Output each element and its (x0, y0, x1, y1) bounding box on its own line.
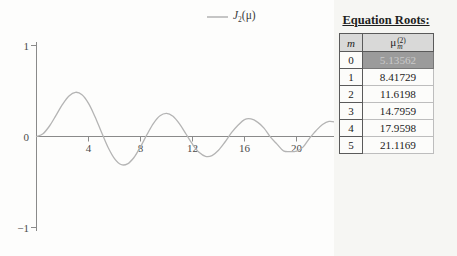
x-tick-label: 16 (239, 142, 251, 154)
y-tick-label: 0 (24, 131, 30, 143)
roots-table-title: Equation Roots: (334, 13, 438, 28)
m-index-cell: 2 (340, 86, 363, 103)
y-tick-label: 1 (24, 40, 30, 52)
table-row: 5 21.1169 (340, 137, 434, 154)
m-index-cell: 0 (340, 52, 363, 69)
roots-panel: Equation Roots: m μ(2)m 0 5.13562 1 8.41… (334, 0, 457, 256)
table-row: 4 17.9598 (340, 120, 434, 137)
root-value-cell-highlighted: 5.13562 (363, 52, 434, 69)
y-tick-label: −1 (17, 222, 29, 234)
x-tick-label: 4 (86, 142, 92, 154)
root-value-cell: 11.6198 (363, 86, 434, 103)
roots-table: m μ(2)m 0 5.13562 1 8.41729 2 11.6198 (339, 33, 434, 154)
mu-symbol: μ (390, 36, 396, 48)
column-header-mu: μ(2)m (363, 34, 434, 52)
m-index-cell: 4 (340, 120, 363, 137)
m-index-cell: 3 (340, 103, 363, 120)
roots-table-header-row: m μ(2)m (340, 34, 434, 52)
figure-bessel-j2: 4812162010−1 J2(μ) Equation Roots: m μ(2… (0, 0, 457, 256)
bessel-curve (37, 92, 336, 165)
legend-argument: (μ) (242, 9, 256, 21)
table-row: 1 8.41729 (340, 69, 434, 86)
root-value-cell: 8.41729 (363, 69, 434, 86)
m-index-cell: 1 (340, 69, 363, 86)
m-index-cell: 5 (340, 137, 363, 154)
root-value-cell: 14.7959 (363, 103, 434, 120)
table-row: 3 14.7959 (340, 103, 434, 120)
root-value-cell: 21.1169 (363, 137, 434, 154)
table-row: 2 11.6198 (340, 86, 434, 103)
table-row: 0 5.13562 (340, 52, 434, 69)
root-value-cell: 17.9598 (363, 120, 434, 137)
column-header-m: m (340, 34, 363, 52)
legend-label: J2(μ) (233, 9, 256, 24)
